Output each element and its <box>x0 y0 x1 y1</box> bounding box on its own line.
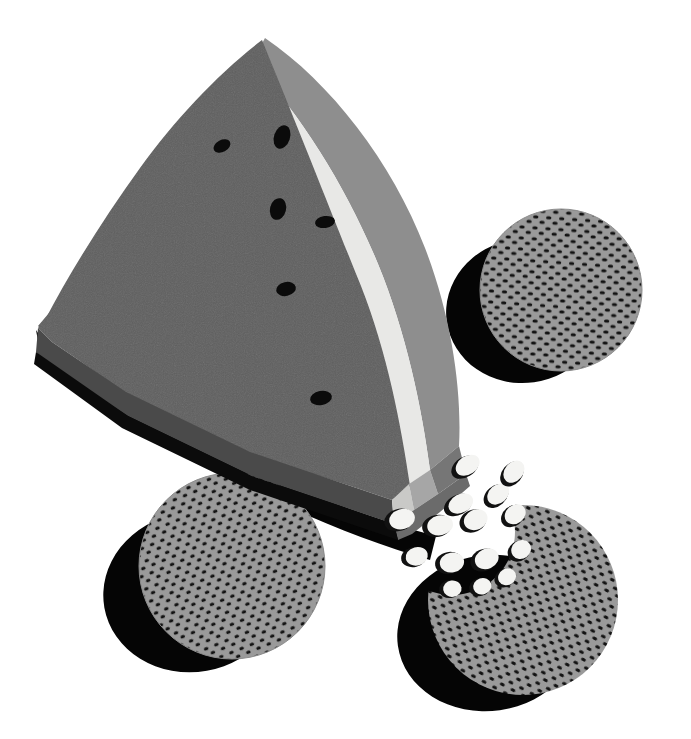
illustration-canvas: Watermelon wedge with two whole melon-se… <box>0 0 691 739</box>
melon-round-top-right <box>480 209 642 371</box>
watermelon-illustration <box>0 0 691 739</box>
